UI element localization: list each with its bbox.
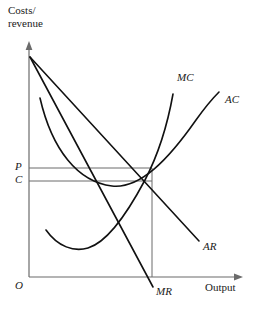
average-cost-label: AC (225, 93, 239, 105)
origin-label: O (15, 279, 23, 291)
price-label: P (15, 160, 22, 172)
marginal-cost-curve (46, 94, 173, 249)
y-axis-label-line2: revenue (8, 17, 43, 29)
marginal-cost-label: MC (177, 71, 194, 83)
y-axis-arrowhead (26, 41, 33, 50)
y-axis-label: Costs/ revenue (8, 4, 43, 30)
cost-revenue-diagram: Costs/ revenue Output O P C MC AC AR MR (0, 0, 269, 310)
diagram-canvas (0, 0, 269, 310)
average-cost-curve (40, 92, 219, 186)
average-revenue-label: AR (203, 240, 216, 252)
x-axis-label: Output (205, 281, 236, 293)
cost-label: C (15, 173, 22, 185)
y-axis-label-line1: Costs/ (8, 4, 36, 16)
marginal-revenue-label: MR (156, 285, 172, 297)
x-axis-arrowhead (234, 274, 243, 281)
